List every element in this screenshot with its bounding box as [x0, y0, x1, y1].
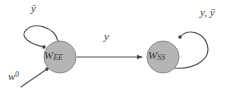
edge-input-path	[21, 69, 47, 87]
node-left-label-base: W	[44, 49, 53, 61]
edge-left-to-right-label: y	[104, 31, 109, 42]
edge-input-label: w0	[8, 71, 19, 82]
edge-input-label-superscript: 0	[15, 70, 19, 79]
node-right-label-subscript: SS	[157, 53, 165, 62]
node-left-label: WEE	[44, 50, 63, 62]
node-right-label-base: W	[148, 49, 157, 61]
state-diagram: WEE WSS ȳ y y, ȳ w0	[0, 0, 237, 91]
node-left-label-subscript: EE	[53, 53, 63, 62]
edge-input-line	[21, 69, 47, 87]
self-loop-left-label: ȳ	[31, 3, 36, 14]
self-loop-right-edge	[174, 32, 208, 68]
node-right-label: WSS	[148, 50, 165, 62]
self-loop-right-label: y, ȳ	[200, 7, 215, 18]
self-loop-right-path	[174, 32, 208, 68]
